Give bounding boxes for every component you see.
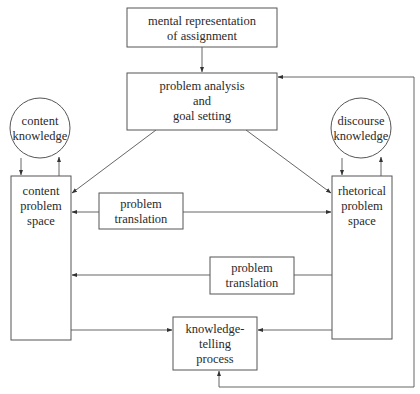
node-label: problem analysis	[159, 79, 244, 93]
node-label: knowledge	[334, 129, 389, 143]
node-label: of assignment	[167, 29, 237, 43]
node-label: rhetorical	[338, 184, 386, 198]
node-label: translation	[115, 212, 169, 226]
node-label: content	[23, 184, 60, 198]
node-discourse-knowledge: discourse knowledge	[331, 98, 391, 158]
node-label: problem	[120, 197, 162, 211]
node-label: space	[27, 214, 55, 228]
node-problem-translation-1: problem translation	[99, 193, 183, 229]
node-label: problem	[341, 199, 383, 213]
node-label: knowledge	[13, 129, 68, 143]
node-content-problem-space: content problem space	[11, 176, 71, 340]
node-knowledge-telling-process: knowledge- telling process	[173, 317, 257, 370]
node-label: content	[22, 114, 59, 128]
writing-process-diagram: mental representation of assignment prob…	[0, 0, 420, 394]
node-label: process	[196, 352, 234, 366]
node-label: problem	[231, 261, 273, 275]
node-rhetorical-problem-space: rhetorical problem space	[332, 176, 392, 339]
node-label: and	[193, 94, 212, 108]
node-label: mental representation	[148, 14, 257, 28]
node-label: goal setting	[173, 109, 232, 123]
node-mental-representation: mental representation of assignment	[127, 8, 277, 47]
node-problem-translation-2: problem translation	[210, 257, 294, 294]
node-label: discourse	[337, 114, 385, 128]
edge-analysis-to-rhetorical	[246, 130, 331, 193]
node-label: knowledge-	[185, 322, 244, 336]
node-label: translation	[226, 276, 280, 290]
node-problem-analysis: problem analysis and goal setting	[127, 73, 277, 130]
node-label: telling	[199, 337, 232, 351]
node-label: problem	[20, 199, 62, 213]
edge-analysis-to-content	[72, 130, 156, 193]
node-label: space	[348, 214, 376, 228]
node-content-knowledge: content knowledge	[10, 98, 70, 158]
